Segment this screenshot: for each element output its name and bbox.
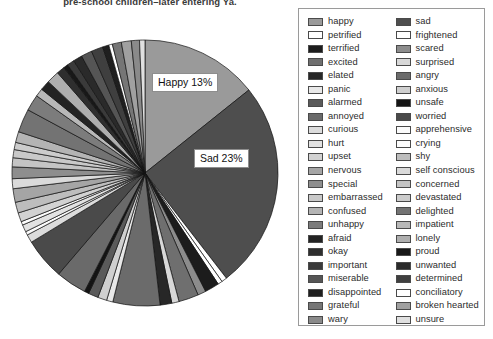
legend-item-label: hurt	[328, 137, 344, 151]
legend-item-label: important	[328, 259, 367, 273]
legend-swatch-icon	[308, 126, 323, 134]
legend-swatch-icon	[308, 262, 323, 270]
legend-item-label: elated	[328, 69, 354, 83]
legend-swatch-icon	[396, 275, 411, 283]
legend-item-label: scared	[416, 42, 444, 56]
legend-item: okay	[308, 245, 392, 259]
legend-swatch-icon	[396, 72, 411, 80]
legend-item-label: delighted	[416, 205, 454, 219]
legend-item: excited	[308, 56, 392, 70]
legend-item-label: okay	[328, 245, 348, 259]
pie-label-sad: Sad 23%	[194, 149, 249, 168]
legend-item: apprehensive	[396, 123, 485, 137]
legend-item: determined	[396, 272, 485, 286]
legend-swatch-icon	[396, 194, 411, 202]
legend-item: annoyed	[308, 110, 392, 124]
legend-swatch-icon	[396, 31, 411, 39]
legend-item-label: panic	[328, 83, 350, 97]
legend-item-label: confused	[328, 205, 366, 219]
legend-item: devastated	[396, 191, 485, 205]
legend-column-one: happypetrifiedterrifiedexcitedelatedpani…	[299, 15, 392, 325]
legend-swatch-icon	[396, 18, 411, 26]
legend-swatch-icon	[308, 140, 323, 148]
legend-swatch-icon	[396, 248, 411, 256]
legend-item-label: determined	[416, 272, 463, 286]
pie-chart: Happy 13% Sad 23%	[8, 9, 290, 334]
legend-swatch-icon	[396, 302, 411, 310]
legend-item: frightened	[396, 29, 485, 43]
legend-swatch-icon	[308, 275, 323, 283]
legend-item: concerned	[396, 178, 485, 192]
legend-item-label: broken hearted	[416, 299, 479, 313]
legend-item-label: terrified	[328, 42, 359, 56]
legend-item: conciliatory	[396, 286, 485, 300]
legend-swatch-icon	[308, 58, 323, 66]
legend-item-label: embarrassed	[328, 191, 383, 205]
legend-item-label: proud	[416, 245, 440, 259]
legend-swatch-icon	[396, 262, 411, 270]
legend-item: angry	[396, 69, 485, 83]
legend-swatch-icon	[396, 45, 411, 53]
legend-item-label: wary	[328, 313, 348, 327]
legend-item: confused	[308, 205, 392, 219]
legend-swatch-icon	[308, 235, 323, 243]
legend-swatch-icon	[308, 113, 323, 121]
legend-item: unsafe	[396, 96, 485, 110]
legend-item-label: sad	[416, 15, 431, 29]
legend-item-label: upset	[328, 150, 351, 164]
legend-swatch-icon	[308, 72, 323, 80]
legend-item-label: annoyed	[328, 110, 364, 124]
legend-item: embarrassed	[308, 191, 392, 205]
legend-item-label: concerned	[416, 178, 460, 192]
legend-item-label: surprised	[416, 56, 455, 70]
legend-swatch-icon	[308, 86, 323, 94]
legend-item: miserable	[308, 272, 392, 286]
legend-item: panic	[308, 83, 392, 97]
legend-swatch-icon	[308, 316, 323, 324]
legend-item-label: frightened	[416, 29, 458, 43]
legend-item-label: unhappy	[328, 218, 364, 232]
legend-item: terrified	[308, 42, 392, 56]
legend-item: elated	[308, 69, 392, 83]
legend-item: delighted	[396, 205, 485, 219]
legend-item-label: afraid	[328, 232, 352, 246]
legend-item-label: lonely	[416, 232, 441, 246]
legend-swatch-icon	[308, 153, 323, 161]
legend-swatch-icon	[396, 180, 411, 188]
legend-swatch-icon	[308, 207, 323, 215]
legend-item: crying	[396, 137, 485, 151]
legend-swatch-icon	[308, 99, 323, 107]
pie-slice-group	[12, 40, 278, 306]
legend-item: happy	[308, 15, 392, 29]
legend-swatch-icon	[308, 248, 323, 256]
legend-swatch-icon	[308, 180, 323, 188]
legend-swatch-icon	[396, 113, 411, 121]
legend-swatch-icon	[396, 207, 411, 215]
legend-swatch-icon	[308, 167, 323, 175]
legend-swatch-icon	[396, 221, 411, 229]
legend-item-label: worried	[416, 110, 447, 124]
legend-item-label: shy	[416, 150, 431, 164]
legend-item: special	[308, 178, 392, 192]
legend-item: unsure	[396, 313, 485, 327]
legend-swatch-icon	[308, 302, 323, 310]
legend-item: unwanted	[396, 259, 485, 273]
legend-item: upset	[308, 150, 392, 164]
legend-item: petrified	[308, 29, 392, 43]
legend-swatch-icon	[396, 167, 411, 175]
legend-swatch-icon	[308, 31, 323, 39]
legend-swatch-icon	[396, 235, 411, 243]
legend-item-label: curious	[328, 123, 358, 137]
legend-item: grateful	[308, 299, 392, 313]
legend-swatch-icon	[396, 99, 411, 107]
legend-swatch-icon	[396, 289, 411, 297]
legend-item-label: special	[328, 178, 357, 192]
legend-swatch-icon	[396, 153, 411, 161]
legend-swatch-icon	[396, 140, 411, 148]
legend-item-label: miserable	[328, 272, 369, 286]
legend-item: unhappy	[308, 218, 392, 232]
legend-item-label: conciliatory	[416, 286, 463, 300]
legend-item: impatient	[396, 218, 485, 232]
legend-item-label: anxious	[416, 83, 448, 97]
legend-swatch-icon	[396, 86, 411, 94]
